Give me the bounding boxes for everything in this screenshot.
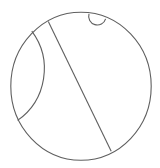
outer-circle (11, 12, 151, 160)
chord-line (48, 22, 111, 152)
geometry-figure: Circle with chord, inner arc and small s… (0, 0, 160, 168)
inner-arc (18, 31, 45, 120)
figure-canvas (0, 0, 160, 168)
